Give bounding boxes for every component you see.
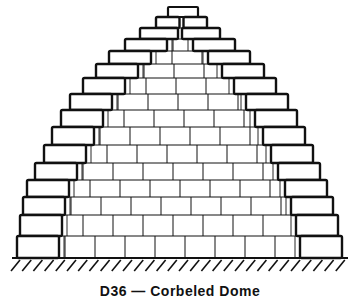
right-corbel-block [193, 39, 235, 51]
right-corbel-block [291, 197, 333, 215]
ground-hatching [11, 258, 348, 271]
left-corbel-block [70, 94, 112, 110]
right-corbel-block [263, 127, 305, 145]
left-corbel-block [109, 51, 151, 64]
right-corbel-block [234, 78, 276, 94]
left-corbel-block [44, 145, 86, 163]
left-corbel-block [156, 17, 180, 28]
right-corbel-block [184, 17, 208, 28]
left-corbel-block [61, 110, 103, 127]
left-corbel-block [96, 64, 138, 78]
right-corbel-block [285, 180, 327, 197]
left-corbel-block [52, 127, 94, 145]
right-corbel-block [208, 51, 250, 64]
right-corbel-block [255, 110, 297, 127]
right-corbel-block [246, 94, 288, 110]
right-corbel-block [182, 28, 220, 39]
left-corbel-block [17, 236, 59, 258]
outer-stepped-blocks [17, 7, 342, 258]
right-corbel-block [300, 236, 342, 258]
left-corbel-block [27, 180, 69, 197]
right-corbel-block [271, 145, 313, 163]
left-corbel-block [35, 163, 77, 180]
left-corbel-block [140, 28, 178, 39]
left-corbel-block [20, 215, 62, 236]
capstone-block [168, 7, 198, 17]
right-corbel-block [278, 163, 320, 180]
right-corbel-block [296, 215, 338, 236]
left-corbel-block [23, 197, 65, 215]
figure-caption: D36 — Corbeled Dome [0, 283, 360, 299]
left-corbel-block [83, 78, 125, 94]
right-corbel-block [222, 64, 264, 78]
left-corbel-block [125, 39, 167, 51]
